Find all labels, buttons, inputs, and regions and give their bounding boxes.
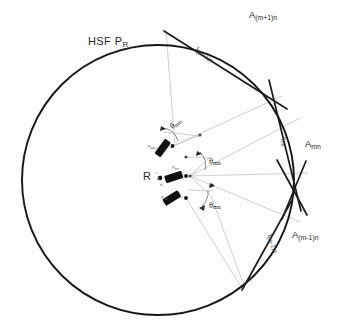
theta-label-middle: θmn xyxy=(209,157,221,166)
aperture-label-lower: A(m-1)n xyxy=(292,230,318,241)
element-middle-sub: mn xyxy=(175,167,179,171)
theta-middle-sub: mn xyxy=(213,160,221,166)
center-note-three-text: d xyxy=(160,182,162,187)
hsf-title-text: HSF P xyxy=(88,35,122,47)
center-radius-label: R xyxy=(143,171,151,182)
center-note-one-text: r xyxy=(156,170,157,175)
theta-label-lower: θmn xyxy=(209,201,221,210)
aperture-lower-sub: (m-1)n xyxy=(298,234,318,241)
aperture-label-middle: Amn xyxy=(305,139,321,150)
center-note-one: r xyxy=(156,171,157,175)
center-note-three: d xyxy=(160,183,162,187)
angle-marker-mid-right xyxy=(209,183,215,188)
element-lower-sub: mn xyxy=(164,197,168,201)
hsf-title: HSF PR xyxy=(88,36,128,49)
arc-label-middle: lmn xyxy=(279,137,288,147)
element-label-lower: Pmn xyxy=(161,196,168,201)
angle-arc-middle xyxy=(200,152,206,170)
hsf-title-sub: R xyxy=(122,40,128,49)
element-label-upper: Pmn xyxy=(148,145,155,150)
aperture-label-upper: A(m+1)n xyxy=(249,10,277,21)
aperture-middle-sub: mn xyxy=(311,143,321,150)
diagram-canvas: HSF PR R A(m+1)n Amn A(m-1)n l(m+1)n lmn… xyxy=(0,0,347,326)
theta-lower-sub: mn xyxy=(213,204,221,210)
center-note-two: Δ xyxy=(157,177,160,181)
arc-middle-sub: mn xyxy=(280,139,286,147)
angle-arc-layer xyxy=(0,0,347,326)
center-radius-text: R xyxy=(143,170,151,182)
angle-arc-lower xyxy=(202,190,208,206)
element-upper-sub: mn xyxy=(151,146,155,150)
angle-arc-upper xyxy=(163,128,178,141)
aperture-upper-sub: (m+1)n xyxy=(255,14,277,21)
element-label-middle: Pmn xyxy=(172,166,179,171)
angle-marker-middle xyxy=(196,151,202,156)
center-note-two-text: Δ xyxy=(157,176,160,181)
angle-marker-upper xyxy=(160,126,166,131)
